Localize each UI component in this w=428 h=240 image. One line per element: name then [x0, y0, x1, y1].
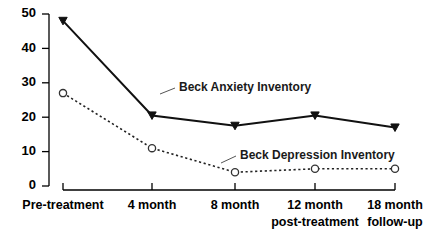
x-tick-label-12-month: 12 month [287, 198, 343, 212]
depression-leader-line [221, 156, 236, 163]
x-tick-label-18-month-line2: follow-up [367, 215, 423, 229]
annotation-beck-depression-inventory: Beck Depression Inventory [221, 148, 395, 163]
y-tick-label-0: 0 [29, 177, 36, 192]
series-beck-anxiety-inventory [59, 17, 399, 131]
y-tick-label-30: 30 [22, 74, 36, 89]
anxiety-line [63, 21, 395, 128]
series-beck-depression-inventory [59, 90, 398, 176]
x-tick-label-8-month: 8 month [211, 198, 260, 212]
depression-point-2 [231, 169, 238, 176]
x-tick-label-18-month: 18 month [367, 198, 423, 212]
depression-markers [59, 90, 398, 176]
y-axis: 50 40 30 20 10 0 [22, 5, 49, 192]
y-tick-label-50: 50 [22, 5, 36, 20]
anxiety-markers [59, 17, 399, 131]
y-tick-label-10: 10 [22, 143, 36, 158]
x-tick-label-4-month: 4 month [128, 198, 177, 212]
depression-point-4 [391, 165, 398, 172]
annotation-beck-anxiety-inventory: Beck Anxiety Inventory [160, 80, 312, 94]
line-chart: 50 40 30 20 10 0 Pre-treatment 4 month 8… [0, 0, 428, 240]
y-tick-label-40: 40 [22, 40, 36, 55]
depression-point-0 [59, 90, 66, 97]
anxiety-series-label: Beck Anxiety Inventory [179, 80, 312, 94]
x-tick-label-12-month-line2: post-treatment [271, 215, 359, 229]
depression-series-label: Beck Depression Inventory [240, 148, 395, 162]
depression-point-1 [148, 145, 155, 152]
x-axis: Pre-treatment 4 month 8 month 12 month p… [22, 183, 423, 229]
y-tick-label-20: 20 [22, 109, 36, 124]
chart-container: 50 40 30 20 10 0 Pre-treatment 4 month 8… [0, 0, 428, 240]
depression-point-3 [311, 165, 318, 172]
x-tick-label-pre-treatment: Pre-treatment [22, 198, 104, 212]
anxiety-leader-line [160, 88, 175, 94]
